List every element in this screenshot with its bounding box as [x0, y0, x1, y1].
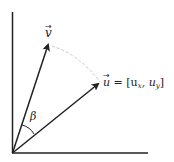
u-equation: u = [ux, uy]	[103, 76, 164, 90]
vector-u	[13, 84, 99, 153]
u-eq-open: = [u	[110, 76, 138, 89]
u-sep: , u	[142, 76, 156, 89]
vector-v	[13, 45, 49, 153]
u-letter: u	[103, 76, 110, 89]
vector-diagram: v → → u = [ux, uy] β	[0, 0, 174, 162]
vector-arrow-icon: →	[45, 22, 52, 31]
u-eq-close: ]	[160, 76, 164, 89]
vector-v-label: v →	[45, 22, 52, 40]
angle-arc	[22, 125, 34, 134]
vector-u-label: → u = [ux, uy]	[103, 71, 164, 90]
rotation-arc	[52, 46, 100, 82]
angle-beta-label: β	[29, 110, 36, 123]
